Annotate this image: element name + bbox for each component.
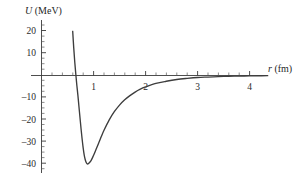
y-tick-label-10: 10: [27, 48, 37, 58]
potential-energy-figure: 1 2 3 4 20 10 –10 –20 –30 –40 U (MeV) r …: [0, 0, 307, 173]
y-tick-label-neg40: –40: [21, 159, 37, 169]
x-axis-title: r (fm): [268, 63, 292, 75]
y-tick-label-neg20: –20: [21, 115, 37, 125]
x-axis-unit: (fm): [274, 63, 292, 75]
y-tick-label-neg30: –30: [21, 137, 37, 147]
plot-canvas: 1 2 3 4 20 10 –10 –20 –30 –40 U (MeV) r …: [0, 0, 307, 173]
y-tick-label-20: 20: [27, 26, 37, 36]
x-tick-label-1: 1: [91, 82, 96, 92]
x-tick-label-4: 4: [247, 82, 252, 92]
y-axis-unit: (MeV): [35, 5, 62, 17]
x-tick-label-3: 3: [195, 82, 200, 92]
y-tick-label-neg10: –10: [21, 92, 37, 102]
figure-background: [0, 0, 307, 173]
y-axis-title: U (MeV): [25, 5, 62, 17]
